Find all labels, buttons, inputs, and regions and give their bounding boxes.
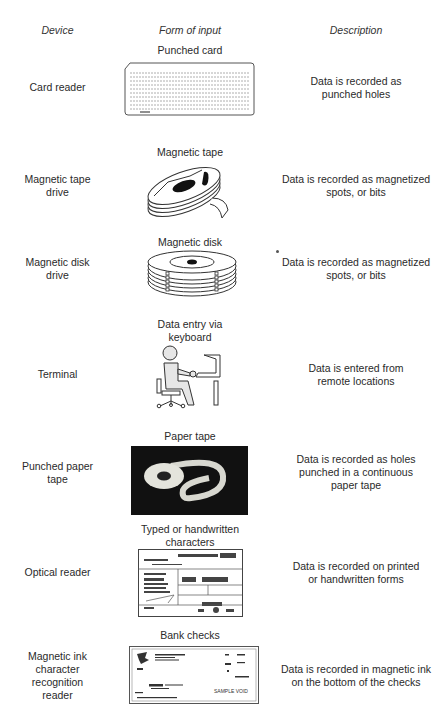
description-paper-tape: Data is recorded as holespunched in a co… (265, 453, 447, 492)
device-magnetic-tape-drive: Magnetic tapedrive (0, 173, 115, 199)
device-optical-reader: Optical reader (0, 566, 115, 579)
description-magnetic-tape: Data is recorded as magnetizedspots, or … (265, 173, 447, 199)
device-micr-reader: Magnetic inkcharacterrecognitionreader (0, 650, 115, 702)
form-caption-bank-checks: Bank checks (115, 629, 265, 642)
printed-form-icon (138, 549, 243, 617)
column-header-form-of-input: Form of input (115, 24, 265, 36)
check-sample-text: SAMPLE VOID (214, 688, 248, 694)
description-card-reader: Data is recorded aspunched holes (265, 75, 447, 101)
bank-check-icon: SAMPLE VOID (129, 646, 259, 704)
description-magnetic-disk: Data is recorded as magnetizedspots, or … (265, 256, 447, 282)
form-caption-keyboard-entry: Data entry viakeyboard (115, 318, 265, 344)
form-caption-paper-tape: Paper tape (115, 430, 265, 443)
person-at-terminal-icon (154, 343, 234, 409)
device-punched-paper-tape: Punched papertape (0, 460, 115, 486)
form-caption-typed-handwritten: Typed or handwrittencharacters (115, 523, 265, 549)
magnetic-tape-reel-icon (140, 160, 240, 220)
form-caption-punched-card: Punched card (115, 44, 265, 57)
description-terminal: Data is entered fromremote locations (265, 362, 447, 388)
device-magnetic-disk-drive: Magnetic diskdrive (0, 256, 115, 282)
device-card-reader: Card reader (0, 81, 115, 94)
column-header-description: Description (265, 24, 447, 36)
description-micr: Data is recorded in magnetic inkon the b… (265, 663, 447, 689)
magnetic-disk-stack-icon (142, 250, 242, 302)
device-terminal: Terminal (0, 368, 115, 381)
column-header-device: Device (0, 24, 115, 36)
paper-tape-roll-photo (131, 446, 248, 515)
punched-card-icon (124, 62, 255, 116)
stray-dot (276, 250, 279, 253)
description-optical-reader: Data is recorded on printedor handwritte… (265, 560, 447, 586)
form-caption-magnetic-disk: Magnetic disk (115, 236, 265, 249)
form-caption-magnetic-tape: Magnetic tape (115, 146, 265, 159)
